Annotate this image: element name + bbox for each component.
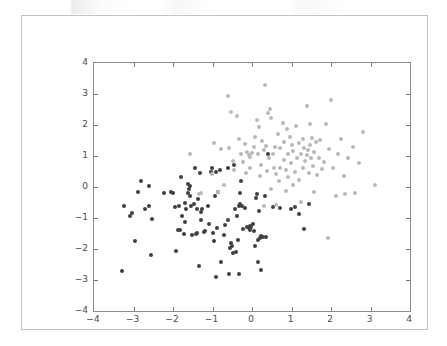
- scatter-point: [239, 179, 243, 183]
- scatter-point: [277, 179, 281, 183]
- scatter-point: [295, 156, 299, 160]
- scatter-point: [278, 146, 282, 150]
- scatter-point: [150, 217, 154, 221]
- scatter-point: [258, 174, 262, 178]
- scatter-point: [239, 152, 243, 156]
- scatter-point: [231, 159, 235, 163]
- x-axis-tick-label: −3: [126, 314, 139, 324]
- y-axis-tick: [406, 218, 410, 219]
- scatter-point: [308, 143, 312, 147]
- scatter-point: [302, 227, 306, 231]
- scatter-point: [308, 122, 312, 126]
- scatter-point: [188, 184, 192, 188]
- scatter-point: [174, 249, 178, 253]
- scatter-point: [307, 171, 311, 175]
- x-axis-tick-label: 1: [288, 314, 294, 324]
- scatter-point: [267, 156, 271, 160]
- scatter-point: [227, 146, 231, 150]
- scatter-point: [203, 229, 207, 233]
- scatter-point: [182, 232, 186, 236]
- scatter-point: [253, 135, 257, 139]
- scatter-point: [223, 223, 227, 227]
- scatter-point: [171, 191, 175, 195]
- y-axis-tick-label: 1: [82, 150, 88, 160]
- scatter-point: [256, 152, 260, 156]
- scatter-point: [210, 166, 214, 170]
- scatter-point: [234, 250, 238, 254]
- scatter-point: [195, 231, 199, 235]
- scan-noise-artifact: [0, 0, 447, 14]
- x-axis-tick-label: 0: [248, 314, 254, 324]
- scatter-point: [183, 201, 187, 205]
- scatter-point: [293, 170, 297, 174]
- scatter-point: [285, 127, 289, 131]
- scatter-point: [210, 172, 214, 176]
- scatter-point: [197, 264, 201, 268]
- scatter-point: [257, 125, 261, 129]
- y-axis-tick-label: 0: [82, 181, 88, 191]
- scatter-point: [327, 147, 331, 151]
- scatter-point: [214, 275, 218, 279]
- scatter-point: [199, 218, 203, 222]
- scatter-point: [186, 191, 190, 195]
- scatter-point: [342, 174, 346, 178]
- scatter-point: [262, 148, 266, 152]
- y-axis-tick: [406, 125, 410, 126]
- scatter-point: [346, 156, 350, 160]
- scatter-point: [219, 260, 223, 264]
- scatter-point: [274, 172, 278, 176]
- scatter-point: [310, 136, 314, 140]
- scatter-point: [329, 98, 333, 102]
- scatter-point: [232, 163, 236, 167]
- scatter-point: [288, 135, 292, 139]
- scatter-point: [253, 244, 257, 248]
- scatter-point: [297, 212, 301, 216]
- scatter-point: [353, 191, 357, 195]
- scatter-point: [238, 191, 242, 195]
- scatter-point: [226, 94, 230, 98]
- x-axis-tick: [292, 307, 293, 311]
- scatter-point: [272, 166, 276, 170]
- scatter-point: [318, 138, 322, 142]
- x-axis-tick: [213, 307, 214, 311]
- scatter-point: [235, 114, 239, 118]
- scatter-point: [317, 156, 321, 160]
- scatter-point: [278, 206, 282, 210]
- y-axis-tick: [94, 187, 98, 188]
- scatter-point: [312, 190, 316, 194]
- scatter-point: [357, 161, 361, 165]
- x-axis-tick-label: 4: [406, 314, 412, 324]
- x-axis-tick: [331, 307, 332, 311]
- scatter-point: [289, 161, 293, 165]
- x-axis-tick-label: 3: [367, 314, 373, 324]
- scatter-point: [179, 175, 183, 179]
- scatter-point: [271, 152, 275, 156]
- scatter-point: [241, 160, 245, 164]
- scatter-point: [133, 239, 137, 243]
- scatter-point: [299, 152, 303, 156]
- scatter-point: [284, 168, 288, 172]
- scatter-point: [282, 140, 286, 144]
- scatter-point: [173, 205, 177, 209]
- x-axis-tick: [134, 307, 135, 311]
- scatter-point: [297, 178, 301, 182]
- scatter-point: [252, 229, 256, 233]
- scatter-point: [227, 272, 231, 276]
- scatter-point: [266, 111, 270, 115]
- scatter-point: [269, 187, 273, 191]
- scatter-point: [293, 205, 297, 209]
- scatter-point: [320, 167, 324, 171]
- scatter-point: [200, 207, 204, 211]
- scatter-point: [274, 203, 278, 207]
- scatter-point: [218, 168, 222, 172]
- scatter-point: [250, 151, 254, 155]
- scatter-point: [180, 214, 184, 218]
- scatter-point: [199, 191, 203, 195]
- x-axis-tick: [252, 307, 253, 311]
- y-axis-tick: [406, 94, 410, 95]
- y-axis-tick-label: −2: [75, 243, 88, 253]
- x-axis-tick: [371, 307, 372, 311]
- scatter-point: [284, 189, 288, 193]
- scatter-point: [244, 171, 248, 175]
- y-axis-tick: [94, 156, 98, 157]
